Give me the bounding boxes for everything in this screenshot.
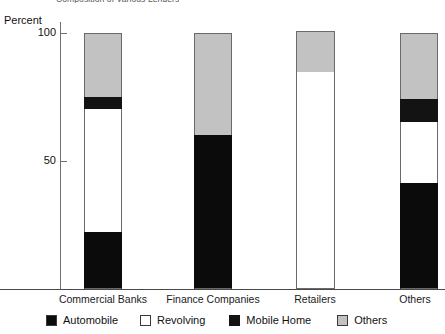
legend-item-others[interactable]: Others <box>337 314 387 326</box>
bar-finance-companies[interactable] <box>194 33 232 289</box>
segment-others <box>194 33 232 135</box>
segment-revolving <box>400 122 438 183</box>
segment-revolving <box>296 72 335 289</box>
bar-others[interactable] <box>400 33 438 289</box>
legend-swatch-icon-others <box>337 315 348 326</box>
legend-item-revolving[interactable]: Revolving <box>140 314 205 326</box>
legend-label-automobile: Automobile <box>63 314 118 326</box>
bar-retailers[interactable] <box>296 31 335 289</box>
legend-label-revolving: Revolving <box>157 314 205 326</box>
x-label-finance-companies: Finance Companies <box>160 293 266 305</box>
segment-automobile <box>400 183 438 289</box>
segment-others <box>84 33 122 97</box>
legend-label-mobile-home: Mobile Home <box>246 314 311 326</box>
bar-commercial-banks[interactable] <box>84 33 122 289</box>
x-label-others: Others <box>385 293 445 305</box>
segment-automobile <box>194 135 232 289</box>
segment-others <box>400 33 438 99</box>
legend-swatch-icon-automobile <box>46 315 57 326</box>
x-label-retailers: Retailers <box>280 293 350 305</box>
plot-area: Commercial Banks Finance Companies Retai… <box>0 0 445 334</box>
stacked-bar-chart: Composition of Various Lenders Percent 1… <box>0 0 445 334</box>
legend-item-automobile[interactable]: Automobile <box>46 314 118 326</box>
segment-mobile-home <box>84 97 122 109</box>
legend-swatch-icon-mobile-home <box>229 315 240 326</box>
segment-automobile <box>84 232 122 289</box>
chart-legend: Automobile Revolving Mobile Home Others <box>46 312 387 328</box>
legend-label-others: Others <box>354 314 387 326</box>
segment-revolving <box>84 109 122 232</box>
legend-item-mobile-home[interactable]: Mobile Home <box>229 314 311 326</box>
legend-swatch-icon-revolving <box>140 315 151 326</box>
segment-others <box>296 31 335 72</box>
x-label-commercial-banks: Commercial Banks <box>53 293 153 305</box>
segment-mobile-home <box>400 99 438 122</box>
